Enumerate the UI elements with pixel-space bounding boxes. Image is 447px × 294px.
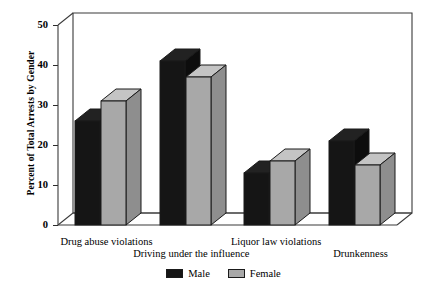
male-swatch-icon: [166, 269, 183, 278]
bar-female-3: [355, 153, 380, 225]
legend-label-female: Female: [250, 268, 281, 279]
bar-male-2: [244, 161, 269, 225]
chart-legend: Male Female: [0, 268, 447, 279]
bar-front-face: [355, 165, 380, 225]
bar-front-face: [75, 121, 100, 225]
category-label-3: Drunkenness: [333, 248, 388, 259]
bar-front-face: [101, 101, 126, 225]
bar-front-face: [186, 77, 211, 225]
category-label-1: Driving under the influence: [133, 248, 249, 259]
bar-female-1: [186, 65, 211, 225]
bar-male-1: [160, 49, 185, 225]
bar-side-face: [295, 149, 310, 225]
bar-chart: Percent of Total Arrests by Gender 01020…: [0, 0, 447, 294]
legend-item-male: Male: [166, 268, 210, 279]
category-label-0: Drug abuse violations: [60, 236, 152, 247]
bar-front-face: [244, 173, 269, 225]
legend-item-female: Female: [228, 268, 281, 279]
bar-front-face: [270, 161, 295, 225]
category-label-2: Liquor law violations: [231, 236, 321, 247]
bar-male-3: [329, 129, 354, 225]
legend-label-male: Male: [188, 268, 210, 279]
bar-side-face: [126, 89, 141, 225]
bar-front-face: [329, 141, 354, 225]
bar-female-0: [101, 89, 126, 225]
bar-side-face: [380, 153, 395, 225]
bar-male-0: [75, 109, 100, 225]
bar-female-2: [270, 149, 295, 225]
bar-side-face: [211, 65, 226, 225]
bar-front-face: [160, 61, 185, 225]
female-swatch-icon: [228, 269, 245, 278]
